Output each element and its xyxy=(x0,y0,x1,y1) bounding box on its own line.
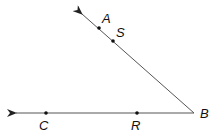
label-S: S xyxy=(116,25,125,40)
point-A xyxy=(97,26,101,30)
angle-diagram: A S C R B xyxy=(0,0,219,139)
point-S xyxy=(111,39,115,43)
point-R xyxy=(135,111,139,115)
point-C xyxy=(44,111,48,115)
label-C: C xyxy=(39,118,49,133)
label-R: R xyxy=(131,118,140,133)
label-B: B xyxy=(200,106,209,121)
label-A: A xyxy=(101,11,111,26)
